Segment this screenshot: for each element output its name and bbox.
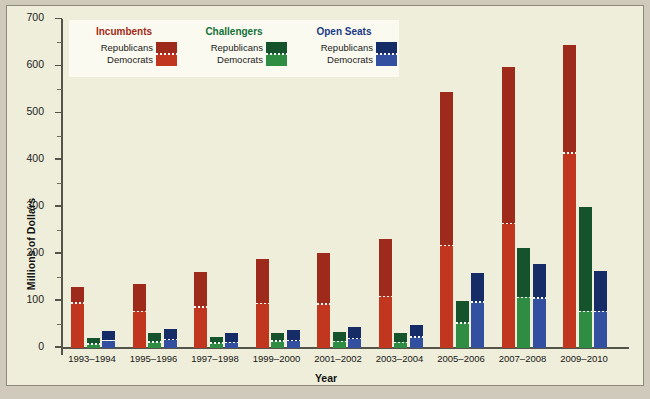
bar-segment-democrats	[563, 153, 576, 348]
bar-group	[563, 46, 623, 348]
bar-segment-democrats	[271, 341, 284, 348]
bar[interactable]	[287, 330, 300, 348]
legend-swatch-divider	[266, 53, 287, 55]
bar-segment-democrats	[379, 296, 392, 348]
y-tick-label-0: 0	[4, 340, 44, 352]
bar-party-divider	[471, 301, 484, 303]
bar-party-divider	[456, 322, 469, 324]
y-tick-minor-50	[57, 324, 62, 325]
bar-segment-democrats	[210, 343, 223, 348]
bar-segment-democrats	[410, 337, 423, 348]
bar[interactable]	[87, 338, 100, 348]
bar-group	[256, 46, 316, 348]
bar[interactable]	[225, 333, 238, 348]
bar[interactable]	[394, 333, 407, 348]
bar-segment-republicans	[133, 284, 146, 312]
bar[interactable]	[440, 92, 453, 348]
bar-group	[71, 46, 131, 348]
bar-party-divider	[348, 338, 361, 340]
bar-segment-democrats	[517, 297, 530, 348]
bar-party-divider	[133, 311, 146, 313]
bar-group	[317, 46, 377, 348]
bar-party-divider	[210, 342, 223, 344]
x-axis-label: 2007–2008	[494, 353, 552, 364]
bar-segment-republicans	[594, 271, 607, 311]
bar[interactable]	[317, 253, 330, 348]
bar-party-divider	[440, 245, 453, 247]
bar[interactable]	[256, 259, 269, 348]
bar[interactable]	[164, 329, 177, 348]
bar[interactable]	[410, 325, 423, 348]
bar[interactable]	[133, 284, 146, 348]
bar[interactable]	[594, 271, 607, 348]
bar[interactable]	[102, 331, 115, 348]
bar-segment-republicans	[348, 327, 361, 339]
bar[interactable]	[379, 239, 392, 348]
bar-segment-democrats	[533, 298, 546, 348]
y-tick-label-200: 200	[4, 246, 44, 258]
bar[interactable]	[348, 327, 361, 348]
legend-swatch-democrats	[266, 54, 287, 66]
bar-party-divider	[194, 306, 207, 308]
y-tick-label-500: 500	[4, 105, 44, 117]
bar-segment-republicans	[379, 239, 392, 297]
bar[interactable]	[271, 333, 284, 348]
x-axis-label: 2005–2006	[432, 353, 490, 364]
bar-party-divider	[594, 311, 607, 313]
bar[interactable]	[533, 264, 546, 349]
bar[interactable]	[563, 45, 576, 348]
bar-party-divider	[87, 343, 100, 345]
bar[interactable]	[579, 207, 592, 348]
bar-party-divider	[502, 223, 515, 225]
x-axis-label: 2009–2010	[555, 353, 613, 364]
legend-label-republicans: Republicans	[211, 42, 263, 54]
legend-party-labels: RepublicansDemocrats	[321, 42, 373, 66]
bar-segment-democrats	[594, 311, 607, 348]
y-tick-label-100: 100	[4, 293, 44, 305]
legend-swatch-democrats	[156, 54, 177, 66]
bar-party-divider	[517, 297, 530, 299]
bar-group	[440, 46, 500, 348]
bar[interactable]	[194, 272, 207, 348]
bar-segment-democrats	[502, 224, 515, 348]
bar-party-divider	[164, 339, 177, 341]
bar[interactable]	[471, 273, 484, 348]
legend-title: Challengers	[179, 26, 289, 37]
bar-party-divider	[271, 340, 284, 342]
bar[interactable]	[148, 333, 161, 348]
bar-segment-democrats	[164, 340, 177, 348]
bar[interactable]	[210, 337, 223, 348]
bar[interactable]	[71, 287, 84, 348]
y-tick-label-700: 700	[4, 11, 44, 23]
bar-segment-democrats	[256, 303, 269, 348]
bar[interactable]	[517, 248, 530, 348]
bar[interactable]	[456, 301, 469, 348]
y-tick-100	[55, 299, 62, 301]
y-tick-label-600: 600	[4, 58, 44, 70]
bar-segment-republicans	[579, 207, 592, 311]
bar-segment-republicans	[456, 301, 469, 323]
bar-party-divider	[71, 302, 84, 304]
bar-segment-republicans	[71, 287, 84, 303]
bar-segment-democrats	[348, 339, 361, 348]
bar-segment-democrats	[287, 341, 300, 349]
bar-party-divider	[225, 342, 238, 344]
bar-segment-republicans	[471, 273, 484, 302]
bar[interactable]	[333, 332, 346, 348]
legend-swatch-democrats	[376, 54, 397, 66]
x-axis-label: 1993–1994	[63, 353, 121, 364]
bar-segment-republicans	[563, 45, 576, 153]
bar-party-divider	[379, 296, 392, 298]
bar-segment-republicans	[410, 325, 423, 337]
bar-party-divider	[287, 340, 300, 342]
y-tick-0	[55, 346, 62, 348]
legend-title: Open Seats	[289, 26, 399, 37]
bar-segment-republicans	[502, 67, 515, 223]
y-tick-300	[55, 205, 62, 207]
legend-swatch	[156, 42, 177, 66]
bar[interactable]	[502, 67, 515, 348]
y-tick-label-400: 400	[4, 152, 44, 164]
chart-legend: IncumbentsRepublicansDemocratsChallenger…	[69, 20, 399, 77]
bar-segment-democrats	[71, 303, 84, 348]
legend-label-democrats: Democrats	[321, 54, 373, 66]
